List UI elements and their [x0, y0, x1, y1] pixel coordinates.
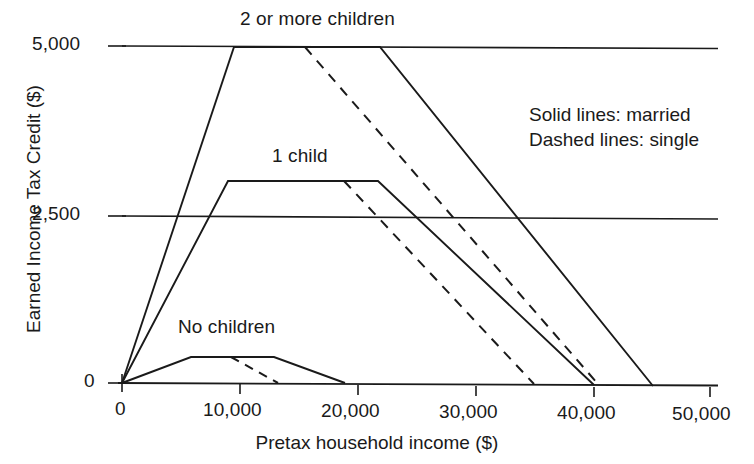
- series-no-children-single: [231, 357, 278, 383]
- y-axis-ticks: [108, 46, 126, 383]
- x-axis: [118, 383, 718, 386]
- eitc-chart: 5,000 2,500 0 0 10,000 20,000 30,000 40,…: [0, 0, 754, 464]
- x-tick-label-0: 0: [115, 398, 126, 420]
- reference-line-5000: [122, 46, 718, 49]
- annotation-no-children: No children: [178, 316, 275, 338]
- reference-line-2500: [122, 216, 718, 219]
- y-tick-label-0: 0: [84, 370, 95, 392]
- series-one-child-married: [122, 181, 594, 385]
- x-tick-label-50000: 50,000: [672, 403, 731, 425]
- annotation-one-child: 1 child: [272, 145, 328, 167]
- annotation-two-or-more-children: 2 or more children: [240, 8, 395, 30]
- x-axis-title: Pretax household income ($): [0, 432, 754, 454]
- x-tick-label-40000: 40,000: [557, 402, 616, 424]
- y-axis-title: Earned Income Tax Credit ($): [23, 29, 45, 389]
- series-no-children-married: [122, 357, 345, 383]
- legend-dashed-single: Dashed lines: single: [529, 129, 699, 151]
- x-tick-label-20000: 20,000: [321, 400, 380, 422]
- x-tick-label-10000: 10,000: [203, 399, 262, 421]
- series-two-or-more-single: [305, 47, 598, 384]
- legend-solid-married: Solid lines: married: [529, 104, 691, 126]
- series-one-child-single: [344, 181, 534, 384]
- x-tick-label-30000: 30,000: [439, 401, 498, 423]
- chart-plot-area: [0, 0, 754, 464]
